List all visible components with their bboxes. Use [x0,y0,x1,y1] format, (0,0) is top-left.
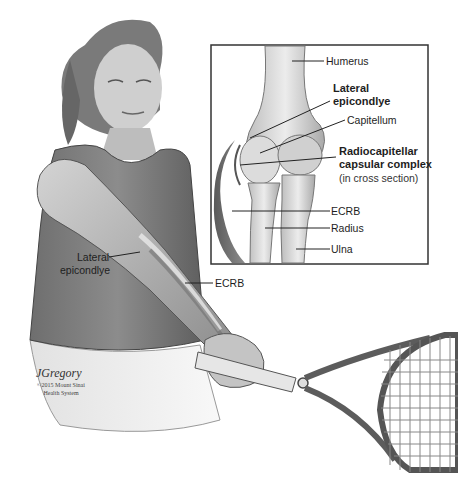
face [94,44,162,132]
illustration-artwork [0,0,458,479]
label-lateral-epicondyle-line1: Lateral [333,82,369,94]
label-capitellum: Capitellum [347,114,397,126]
racket-head [380,335,458,470]
copyright-line2: Health System [25,390,97,397]
copyright-line1: ©2015 Mount Sinai [25,382,97,389]
label-arm-ecrb: ECRB [215,277,244,289]
label-ecrb-inset: ECRB [331,205,360,217]
label-lateral-epicondyle-line2: epicondlye [333,95,390,107]
label-radiocapitellar-line2: capsular complex [339,158,432,170]
label-radiocapitellar-note: (in cross section) [339,172,418,184]
label-radius: Radius [331,222,364,234]
label-humerus: Humerus [326,55,369,67]
illustration: Humerus Lateral epicondlye Capitellum Ra… [0,0,458,479]
artist-signature: JGregory [36,366,82,381]
label-radiocapitellar-line1: Radiocapitellar [339,145,418,157]
label-arm-lateral-line2: epicondlye [60,264,110,276]
label-ulna: Ulna [331,243,353,255]
label-arm-lateral-line1: Lateral [77,251,109,263]
